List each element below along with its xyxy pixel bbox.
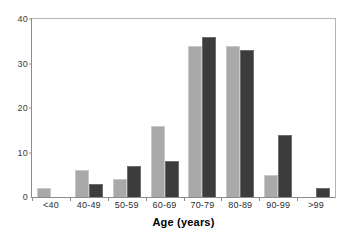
x-tick-label: 90-99 bbox=[259, 200, 297, 210]
bar bbox=[202, 37, 216, 197]
bar-group bbox=[259, 19, 297, 197]
x-axis-title: Age (years) bbox=[32, 216, 335, 228]
bar-group bbox=[146, 19, 184, 197]
bar bbox=[165, 161, 179, 197]
bar bbox=[264, 175, 278, 197]
y-tick-label: 30 bbox=[18, 59, 28, 69]
bar-groups bbox=[32, 19, 335, 197]
bar bbox=[89, 184, 103, 197]
x-tick-labels: <4040-4950-5960-6970-7980-8990-99>99 bbox=[32, 200, 335, 210]
bar bbox=[113, 179, 127, 197]
bar bbox=[316, 188, 330, 197]
x-tick-label: 70-79 bbox=[184, 200, 222, 210]
bar-group bbox=[108, 19, 146, 197]
bar bbox=[278, 135, 292, 197]
bar-group bbox=[184, 19, 222, 197]
bar-group bbox=[297, 19, 335, 197]
bar bbox=[226, 46, 240, 197]
y-tick-label: 0 bbox=[23, 192, 28, 202]
x-tick-label: 60-69 bbox=[146, 200, 184, 210]
x-tick-label: <40 bbox=[32, 200, 70, 210]
bar bbox=[75, 170, 89, 197]
bar-group bbox=[221, 19, 259, 197]
bar-group bbox=[70, 19, 108, 197]
bar bbox=[127, 166, 141, 197]
y-tick-label: 20 bbox=[18, 103, 28, 113]
bar-group bbox=[32, 19, 70, 197]
plot-area: 010203040 bbox=[31, 18, 336, 198]
bar bbox=[151, 126, 165, 197]
y-tick-label: 10 bbox=[18, 148, 28, 158]
x-tick-label: 50-59 bbox=[108, 200, 146, 210]
x-tick-label: 80-89 bbox=[221, 200, 259, 210]
bar bbox=[188, 46, 202, 197]
bar bbox=[240, 50, 254, 197]
bar bbox=[37, 188, 51, 197]
x-tick-label: 40-49 bbox=[70, 200, 108, 210]
bar-chart: 010203040 <4040-4950-5960-6970-7980-8990… bbox=[0, 0, 350, 242]
x-tick-label: >99 bbox=[297, 200, 335, 210]
y-tick-label: 40 bbox=[18, 14, 28, 24]
